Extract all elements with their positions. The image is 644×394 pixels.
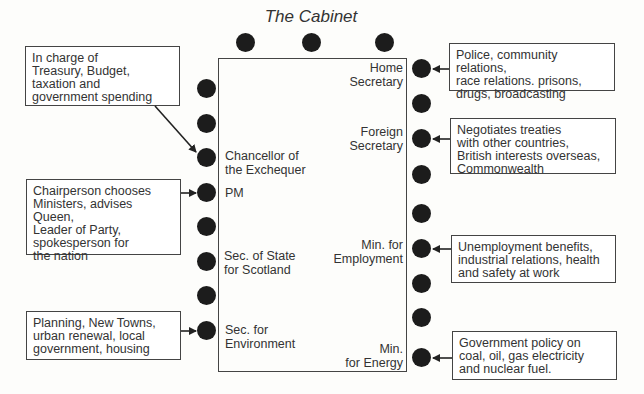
arrow-chancellor	[155, 106, 196, 152]
connector-arrows	[0, 0, 644, 394]
